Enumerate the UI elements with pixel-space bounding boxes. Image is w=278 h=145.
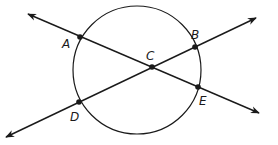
label-D: D	[70, 110, 79, 124]
point-A	[77, 34, 83, 40]
point-C	[149, 64, 155, 70]
point-B	[192, 44, 198, 50]
label-A: A	[61, 37, 70, 51]
label-C: C	[146, 49, 155, 63]
line-AE	[28, 14, 259, 113]
point-D	[76, 99, 82, 105]
point-E	[195, 84, 201, 90]
label-B: B	[191, 28, 199, 42]
label-E: E	[199, 94, 207, 108]
line-DB	[6, 18, 256, 137]
circle	[73, 6, 201, 134]
diagram-svg: A B C D E	[0, 0, 278, 145]
geometry-diagram: A B C D E	[0, 0, 278, 145]
